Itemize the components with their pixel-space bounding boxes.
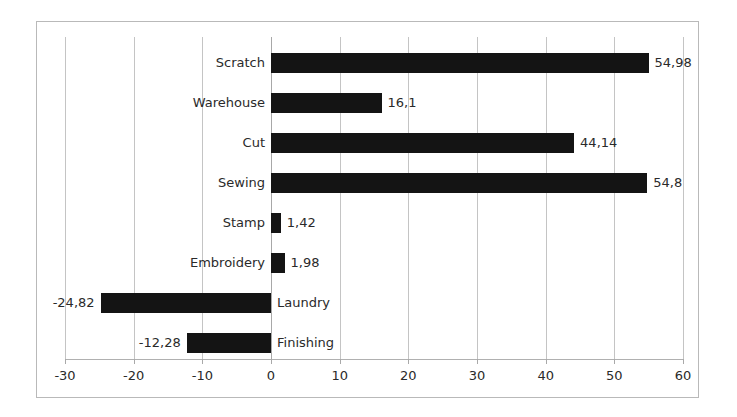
value-label: 1,42	[287, 213, 316, 233]
bar-row: Finishing-12,28	[65, 323, 683, 363]
bar[interactable]	[271, 253, 285, 273]
value-label: 44,14	[580, 133, 617, 153]
tick--30	[65, 359, 66, 364]
tick--20	[134, 359, 135, 364]
tick--10	[202, 359, 203, 364]
value-label: 54,8	[653, 173, 682, 193]
bar[interactable]	[271, 53, 649, 73]
value-label: -12,28	[139, 333, 181, 353]
x-tick-label: -20	[123, 368, 144, 383]
x-tick-label: 0	[267, 368, 275, 383]
plot-area: Scratch54,98Warehouse16,1Cut44,14Sewing5…	[65, 37, 683, 359]
tick-0	[271, 359, 272, 364]
category-label: Sewing	[218, 173, 265, 193]
bar-row: Laundry-24,82	[65, 283, 683, 323]
category-label: Stamp	[223, 213, 265, 233]
bar-row: Sewing54,8	[65, 163, 683, 203]
value-label: 16,1	[388, 93, 417, 113]
tick-30	[477, 359, 478, 364]
x-axis-baseline	[65, 359, 683, 360]
value-label: 54,98	[655, 53, 692, 73]
bar[interactable]	[271, 213, 281, 233]
tick-20	[408, 359, 409, 364]
category-label: Embroidery	[190, 253, 265, 273]
bar[interactable]	[271, 93, 382, 113]
category-label: Finishing	[277, 333, 334, 353]
tick-10	[340, 359, 341, 364]
bar-row: Embroidery1,98	[65, 243, 683, 283]
tick-60	[683, 359, 684, 364]
x-tick-label: -10	[192, 368, 213, 383]
value-label: 1,98	[291, 253, 320, 273]
x-tick-label: -30	[54, 368, 75, 383]
category-label: Laundry	[277, 293, 330, 313]
value-label: -24,82	[53, 293, 95, 313]
bar-row: Cut44,14	[65, 123, 683, 163]
category-label: Warehouse	[193, 93, 265, 113]
category-label: Cut	[243, 133, 265, 153]
x-tick-label: 20	[400, 368, 417, 383]
x-tick-label: 10	[331, 368, 348, 383]
category-label: Scratch	[216, 53, 265, 73]
tick-40	[546, 359, 547, 364]
bar[interactable]	[101, 293, 271, 313]
bar[interactable]	[271, 173, 647, 193]
x-tick-label: 30	[469, 368, 486, 383]
bar-row: Stamp1,42	[65, 203, 683, 243]
chart-frame: Scratch54,98Warehouse16,1Cut44,14Sewing5…	[36, 21, 699, 398]
bar[interactable]	[187, 333, 271, 353]
bar-row: Warehouse16,1	[65, 83, 683, 123]
gridline-60	[683, 37, 684, 359]
x-tick-label: 40	[537, 368, 554, 383]
bar-row: Scratch54,98	[65, 43, 683, 83]
x-tick-label: 50	[606, 368, 623, 383]
x-tick-label: 60	[675, 368, 692, 383]
tick-50	[614, 359, 615, 364]
bar[interactable]	[271, 133, 574, 153]
